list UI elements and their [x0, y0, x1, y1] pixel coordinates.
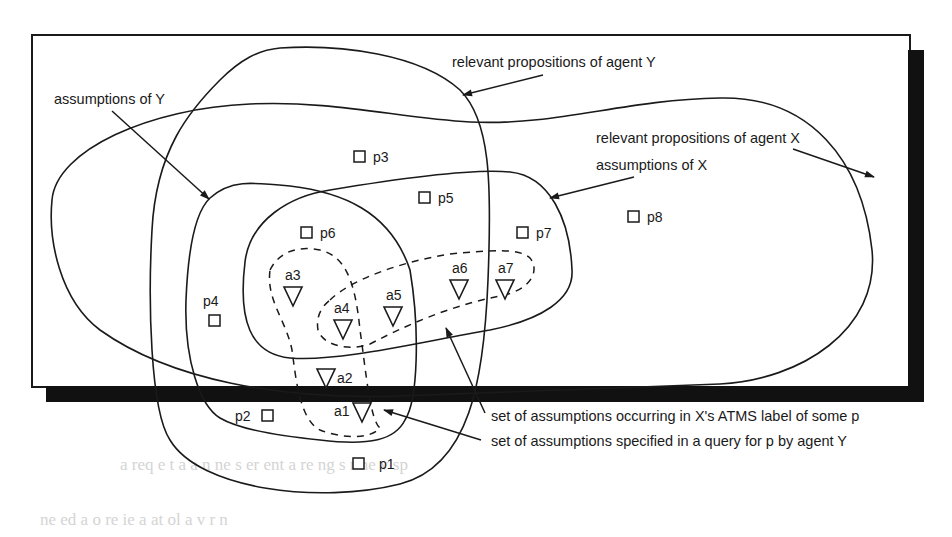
square-icon [419, 192, 430, 203]
label-p7: p7 [536, 225, 552, 241]
label-p5: p5 [438, 190, 454, 206]
square-icon [353, 458, 364, 469]
label-a4: a4 [334, 300, 350, 316]
callout-assumptions-y: assumptions of Y [54, 91, 165, 107]
label-a1: a1 [334, 403, 350, 419]
square-icon [628, 211, 639, 222]
label-a2: a2 [337, 370, 353, 386]
callout-relevant-props-y: relevant propositions of agent Y [452, 54, 656, 70]
callout-assumptions-x: assumptions of X [596, 157, 708, 173]
triangle-down-icon [353, 403, 371, 422]
diagram-canvas: ne ed a o re ie a at ol a v r n a req e … [0, 0, 952, 537]
square-icon [517, 227, 528, 238]
callout-query-set: set of assumptions specified in a query … [491, 433, 847, 449]
label-a5: a5 [386, 287, 402, 303]
square-icon [354, 151, 365, 162]
background-text-line-1: ne ed a o re ie a at ol a v r n [40, 510, 228, 529]
label-p2: p2 [235, 408, 251, 424]
label-p4: p4 [203, 293, 219, 309]
square-icon [262, 410, 273, 421]
callout-relevant-props-x: relevant propositions of agent X [596, 130, 800, 146]
arrow-icon [384, 410, 481, 440]
square-icon [301, 227, 312, 238]
label-a3: a3 [285, 267, 301, 283]
atms-agent-diagram: ne ed a o re ie a at ol a v r n a req e … [0, 0, 952, 537]
label-p3: p3 [373, 149, 389, 165]
label-p6: p6 [320, 225, 336, 241]
label-p1: p1 [379, 456, 395, 472]
callout-atms-label-set: set of assumptions occurring in X's ATMS… [491, 408, 859, 424]
label-a7: a7 [498, 260, 514, 276]
label-a6: a6 [452, 260, 468, 276]
square-icon [209, 315, 220, 326]
label-p8: p8 [647, 209, 663, 225]
